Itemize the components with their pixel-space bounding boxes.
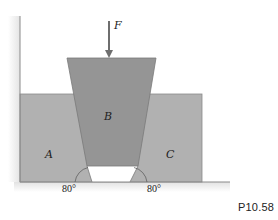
figure-caption: P10.58	[238, 201, 274, 213]
gap-region	[87, 166, 138, 182]
wedge-diagram: F B A C 80° 80°	[0, 0, 278, 220]
wall-shadow	[8, 16, 20, 182]
angle-label-left: 80°	[62, 183, 76, 194]
angle-label-right: 80°	[147, 183, 161, 194]
force-label: F	[113, 19, 122, 32]
floor-shadow	[14, 182, 230, 192]
label-c: C	[166, 148, 175, 161]
label-a: A	[44, 148, 53, 161]
force-arrow	[105, 21, 113, 58]
label-b: B	[103, 110, 112, 123]
